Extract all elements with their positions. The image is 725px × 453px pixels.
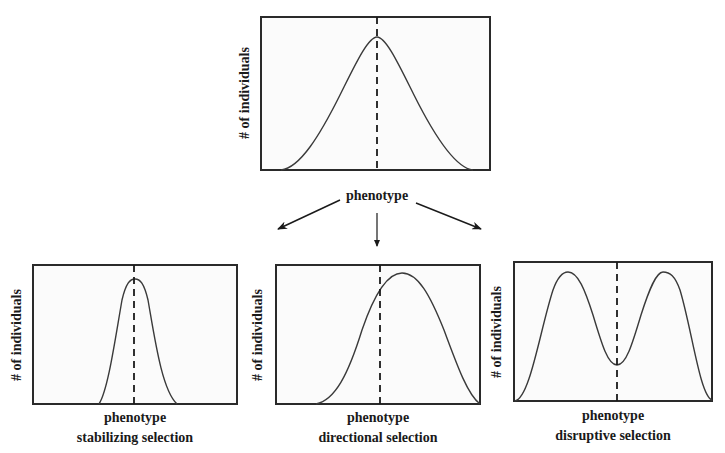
x-axis-label: phenotype xyxy=(318,410,438,426)
selection-diagram: # of individuals phenotype # of individu… xyxy=(0,0,725,453)
frame xyxy=(276,265,480,404)
diagram-graphics xyxy=(0,0,725,453)
stabilizing-panel xyxy=(33,265,237,404)
frame xyxy=(33,265,237,404)
panel-caption: stabilizing selection xyxy=(60,430,210,446)
frame xyxy=(261,17,490,170)
disruptive-panel xyxy=(514,262,712,401)
x-axis-label: phenotype xyxy=(75,410,195,426)
original-distribution-panel xyxy=(261,17,490,170)
directional-panel xyxy=(276,265,480,404)
arrow-to-disruptive xyxy=(416,203,481,229)
arrow-to-stabilizing xyxy=(278,200,340,229)
y-axis-label: # of individuals xyxy=(237,28,253,158)
y-axis-label: # of individuals xyxy=(250,270,266,400)
y-axis-label: # of individuals xyxy=(9,270,25,400)
panel-caption: disruptive selection xyxy=(538,428,688,444)
frame xyxy=(514,262,712,401)
x-axis-label: phenotype xyxy=(553,408,673,424)
x-axis-label: phenotype xyxy=(317,188,437,204)
panel-caption: directional selection xyxy=(303,430,453,446)
y-axis-label: # of individuals xyxy=(489,267,505,397)
